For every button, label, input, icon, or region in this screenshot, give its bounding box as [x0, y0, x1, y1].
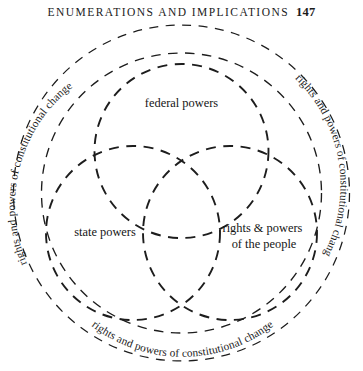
set-label-people-line-1: rights & powers: [223, 221, 303, 235]
venn-diagram-svg: rights and powers of constitutional chan…: [0, 20, 363, 371]
set-label-people-line-2: of the people: [232, 237, 297, 251]
venn-diagram-figure: rights and powers of constitutional chan…: [0, 20, 363, 371]
arc-label-left: rights and powers of constitutional chan…: [5, 79, 74, 267]
set-circle-federal-powers: [95, 64, 269, 238]
set-label-rights-of-the-people: rights & powers of the people: [223, 221, 306, 251]
arc-label-left-text: rights and powers of constitutional chan…: [5, 79, 74, 267]
set-label-state-powers: state powers: [74, 225, 136, 239]
page-canvas: ENUMERATIONS AND IMPLICATIONS147 rights …: [0, 0, 363, 371]
arc-label-bottom-text: rights and powers of constitutional chan…: [90, 318, 275, 359]
inner-boundary-circle: [42, 53, 322, 333]
running-head: ENUMERATIONS AND IMPLICATIONS147: [0, 4, 363, 20]
arc-label-bottom: rights and powers of constitutional chan…: [90, 318, 275, 359]
page-number: 147: [296, 5, 315, 19]
running-head-title: ENUMERATIONS AND IMPLICATIONS: [48, 6, 289, 18]
set-label-federal-powers: federal powers: [145, 96, 218, 110]
